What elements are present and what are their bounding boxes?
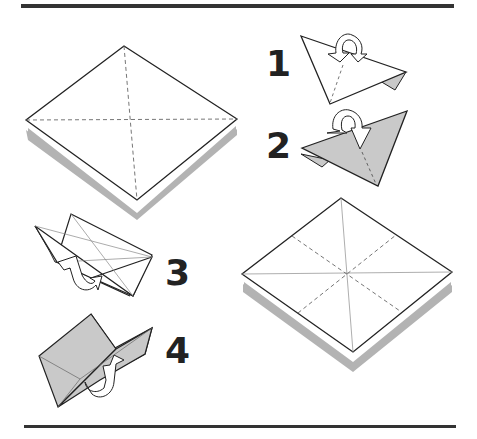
step-4-number: 4 (165, 333, 190, 369)
step-4-figure (39, 314, 152, 407)
step-1-triangle (301, 36, 406, 104)
step-3-figure (35, 214, 152, 296)
base-square-figure (26, 46, 237, 220)
step-3-number: 3 (165, 255, 190, 291)
step-1-number: 1 (266, 46, 291, 82)
bottom-rule (24, 425, 456, 428)
step-2-figure (301, 110, 407, 186)
step-1-figure (301, 34, 406, 104)
base-square-paper (26, 46, 237, 200)
result-square-figure (242, 198, 452, 372)
origami-diagram (0, 0, 477, 439)
step-2-number: 2 (266, 128, 291, 164)
top-rule (21, 4, 454, 8)
